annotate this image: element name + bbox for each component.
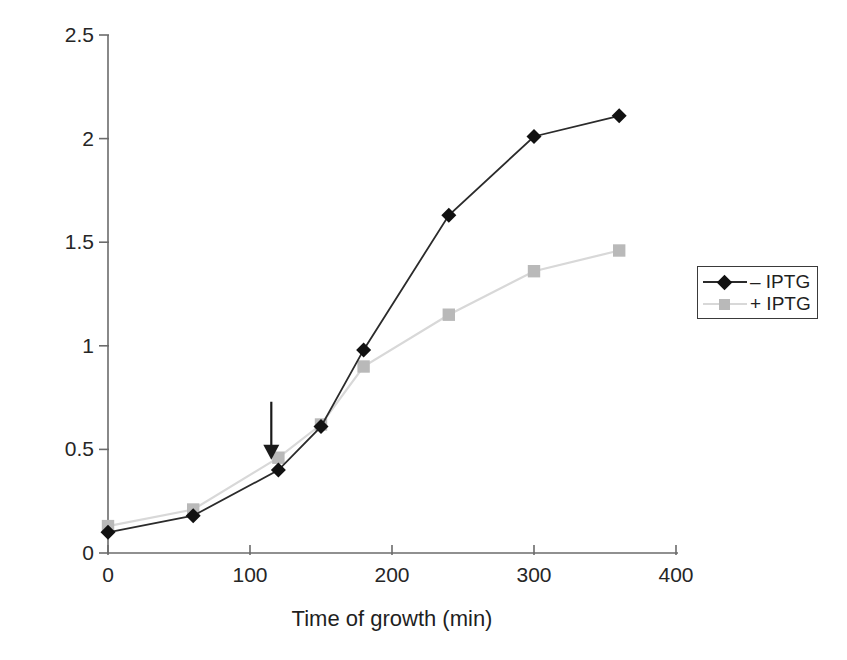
x-axis-tick-label: 100 — [232, 563, 267, 587]
x-axis-tick-label: 300 — [516, 563, 551, 587]
legend-entry-plus-iptg: + IPTG — [698, 293, 817, 315]
square-marker-icon — [719, 299, 730, 310]
chart-figure: 00.511.522.5 0100200300400 Absorbance680… — [0, 0, 847, 660]
axis-lines — [99, 35, 678, 555]
legend-sample-minus-iptg — [703, 273, 747, 291]
series-line-plus-iptg — [108, 251, 619, 527]
square-marker-icon — [443, 309, 455, 321]
square-marker-icon — [528, 265, 540, 277]
legend-entry-minus-iptg: – IPTG — [698, 271, 817, 293]
y-axis-tick-label: 1 — [20, 334, 94, 358]
series-line-minus-iptg — [108, 116, 619, 533]
diamond-marker-icon — [612, 108, 627, 123]
y-axis-tick-label: 2.5 — [20, 23, 94, 47]
square-marker-icon — [357, 360, 369, 372]
square-marker-icon — [613, 244, 625, 256]
x-axis-tick-label: 200 — [374, 563, 409, 587]
diamond-marker-icon — [356, 342, 371, 357]
annotation-layer — [263, 402, 279, 460]
y-axis-tick-label: 2 — [20, 127, 94, 151]
x-axis-title: Time of growth (min) — [108, 606, 676, 632]
y-axis-tick-label: 0 — [20, 541, 94, 565]
legend-label-plus-iptg: + IPTG — [747, 293, 811, 315]
legend-sample-plus-iptg — [703, 295, 747, 313]
x-axis-tick-label: 400 — [658, 563, 693, 587]
y-axis-tick-label: 1.5 — [20, 230, 94, 254]
y-axis-tick-label: 0.5 — [20, 437, 94, 461]
legend-label-minus-iptg: – IPTG — [747, 271, 810, 293]
diamond-marker-icon — [717, 275, 733, 291]
x-axis-tick-label: 0 — [102, 563, 114, 587]
data-series-layer — [101, 108, 627, 540]
plot-area — [0, 0, 847, 660]
legend-box: – IPTG + IPTG — [697, 266, 818, 319]
